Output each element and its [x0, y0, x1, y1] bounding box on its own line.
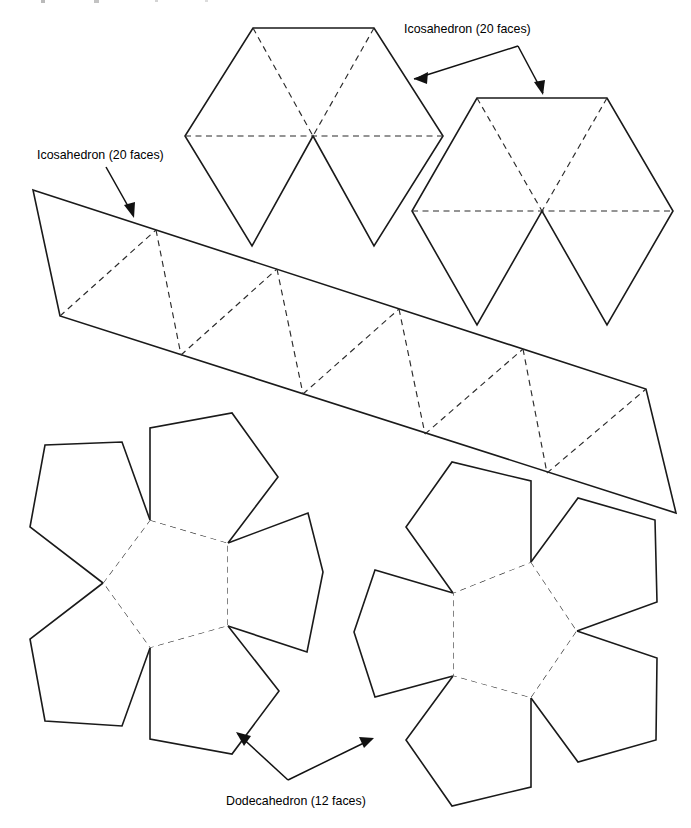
- arrowhead-right: [359, 737, 374, 748]
- pentagon-face-fill: [150, 413, 278, 543]
- arrowhead: [124, 202, 135, 218]
- arrowhead-left: [414, 72, 428, 84]
- dodecahedron-net-right: [354, 462, 657, 806]
- icosahedron-cap-right: [412, 98, 673, 325]
- leader-line-right: [288, 739, 372, 780]
- icosahedron-top-label: Icosahedron (20 faces): [404, 22, 531, 36]
- pentagon-face-fill: [150, 626, 279, 754]
- polyhedra-nets-figure: Icosahedron (20 faces) Icosahedron (20 f…: [0, 0, 691, 828]
- icosahedron-band-label: Icosahedron (20 faces): [37, 148, 164, 162]
- annotation-dodecahedron: Dodecahedron (12 faces): [226, 732, 374, 808]
- icosahedron-cap-left: [185, 28, 443, 246]
- leader-line-left: [414, 46, 518, 79]
- annotation-icosahedron-top: Icosahedron (20 faces): [404, 22, 545, 95]
- pentagon-face-fill: [406, 676, 531, 806]
- dodecahedron-net-left: [30, 413, 323, 754]
- net-diagram-canvas: Icosahedron (20 faces) Icosahedron (20 f…: [0, 0, 691, 828]
- dodecahedron-label: Dodecahedron (12 faces): [226, 794, 366, 808]
